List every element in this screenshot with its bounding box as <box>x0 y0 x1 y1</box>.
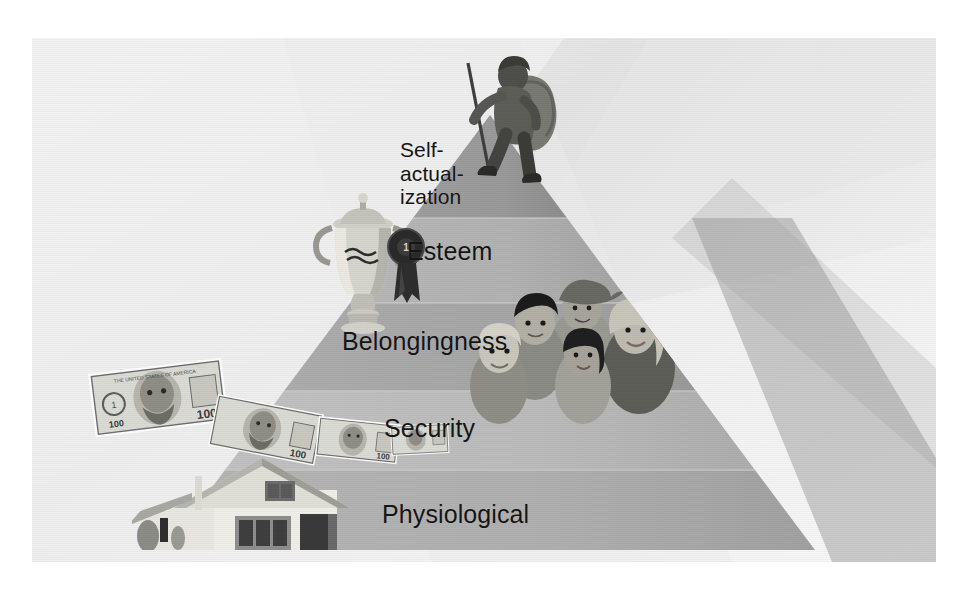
tier-label-belongingness: Belongingness <box>342 328 507 355</box>
svg-text:100: 100 <box>108 418 124 430</box>
tier-label-security: Security <box>384 415 475 442</box>
tier-label-self-actualization: Self- actual- ization <box>400 138 464 209</box>
tier-label-physiological: Physiological <box>382 501 529 528</box>
pyramid-svg: 1 100 100 THE UNITED STATES OF AMERICA <box>32 38 936 562</box>
diagram-panel: 1 100 100 THE UNITED STATES OF AMERICA <box>32 38 936 562</box>
screenshot-root: 1 100 100 THE UNITED STATES OF AMERICA <box>0 0 968 598</box>
svg-text:100: 100 <box>376 451 391 461</box>
tier-label-esteem: Esteem <box>407 238 492 265</box>
pyramid-graphic: 1 100 100 THE UNITED STATES OF AMERICA <box>32 38 936 562</box>
